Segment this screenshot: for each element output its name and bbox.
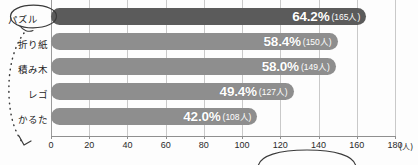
x-tick-label: 20	[84, 140, 94, 150]
x-tick-label: 140	[311, 140, 326, 150]
arrowhead-icon	[19, 136, 31, 145]
bar-row: 64.2%(165人)	[51, 8, 395, 25]
bar: 49.4%(127人)	[51, 83, 294, 100]
bar-row: 58.0%(149人)	[51, 58, 395, 75]
x-axis-line	[51, 136, 396, 137]
x-tick-label: 100	[235, 140, 250, 150]
category-label: 積み木	[0, 62, 48, 76]
bar-value-label: 64.2%(165人)	[292, 10, 360, 24]
plot-area: 64.2%(165人)58.4%(150人)58.0%(149人)49.4%(1…	[51, 0, 395, 136]
x-tick	[89, 136, 90, 139]
bar-value-label: 58.0%(149人)	[262, 60, 330, 74]
bar: 58.4%(150人)	[51, 33, 338, 50]
bar-value-percent: 64.2%	[292, 10, 329, 24]
bottom-ellipse-icon	[258, 150, 356, 165]
bar-value-label: 42.0%(108人)	[183, 110, 251, 124]
bar-row: 58.4%(150人)	[51, 33, 395, 50]
bar-value-label: 49.4%(127人)	[220, 85, 288, 99]
bar-value-percent: 42.0%	[183, 110, 220, 124]
bar-value-count: (149人)	[301, 63, 330, 72]
bar-value-percent: 58.4%	[264, 35, 301, 49]
x-axis-unit-label: (人)	[399, 141, 413, 152]
horizontal-bar-chart: 64.2%(165人)58.4%(150人)58.0%(149人)49.4%(1…	[0, 0, 418, 165]
category-label: レゴ	[0, 87, 48, 101]
bar: 58.0%(149人)	[51, 58, 336, 75]
bar: 64.2%(165人)	[51, 8, 366, 25]
bar: 42.0%(108人)	[51, 108, 257, 125]
x-tick	[51, 136, 52, 139]
x-tick	[127, 136, 128, 139]
x-tick	[357, 136, 358, 139]
x-tick-label: 0	[48, 140, 53, 150]
gridline	[395, 0, 396, 136]
bar-value-percent: 58.0%	[262, 60, 299, 74]
x-tick-label: 60	[161, 140, 171, 150]
bar-value-label: 58.4%(150人)	[264, 35, 332, 49]
category-label: かるた	[0, 112, 48, 126]
bar-value-count: (150人)	[303, 38, 332, 47]
x-tick	[204, 136, 205, 139]
bar-value-count: (108人)	[223, 113, 252, 122]
bar-value-count: (127人)	[259, 88, 288, 97]
bar-value-count: (165人)	[331, 13, 360, 22]
x-tick-label: 40	[122, 140, 132, 150]
bar-row: 49.4%(127人)	[51, 83, 395, 100]
category-label: 折り紙	[0, 37, 48, 51]
ellipse-tail-icon	[20, 26, 33, 31]
x-tick	[166, 136, 167, 139]
x-tick	[319, 136, 320, 139]
x-tick-label: 80	[199, 140, 209, 150]
x-tick	[280, 136, 281, 139]
category-label-highlighted: パズル	[0, 11, 45, 27]
x-tick-label: 120	[273, 140, 288, 150]
bar-value-percent: 49.4%	[220, 85, 257, 99]
x-tick-label: 160	[349, 140, 364, 150]
x-tick	[242, 136, 243, 139]
x-tick	[395, 136, 396, 139]
bar-row: 42.0%(108人)	[51, 108, 395, 125]
